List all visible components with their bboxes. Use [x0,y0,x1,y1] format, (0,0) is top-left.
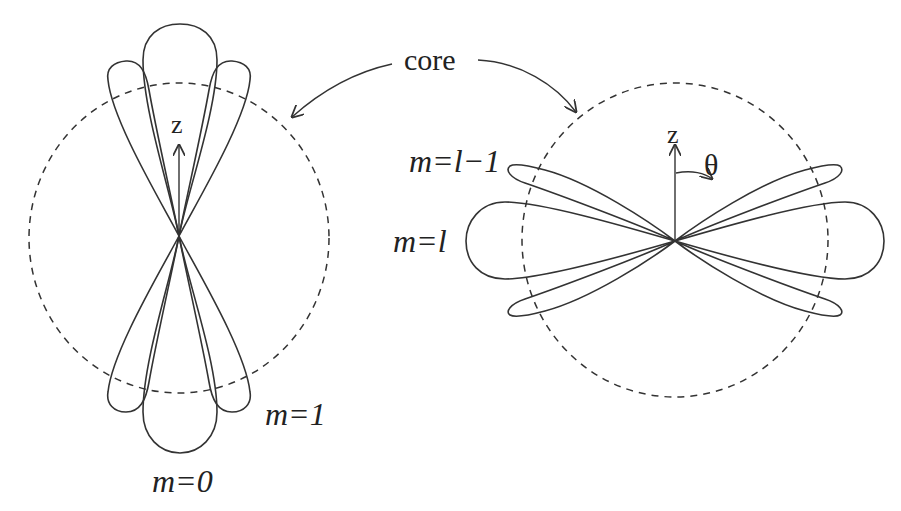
right-ml-lobe-left [466,202,675,279]
left-z-label: z [171,112,183,138]
left-m0-lobe-bottom [143,236,217,453]
label-m-l-minus-1: m=l−1 [409,145,500,177]
right-z-label: z [667,122,679,148]
right-ml1-lobe-lower-left [508,241,675,316]
right-ml1-lobe-lower-right [675,241,842,316]
core-arrow-left [292,64,392,117]
theta-label: θ [704,150,718,180]
core-label: core [404,45,456,75]
left-panel [29,24,329,453]
left-m1-lobe-bottom-left [108,236,179,412]
right-ml-lobe-right [675,202,884,279]
diagram-canvas [0,0,901,511]
label-m0: m=0 [152,465,213,497]
right-ml1-lobe-upper-left [508,165,675,241]
label-m-l: m=l [393,225,447,257]
core-arrow-right [478,60,576,112]
label-m1: m=1 [265,398,326,430]
right-ml1-lobe-upper-right [675,165,842,241]
